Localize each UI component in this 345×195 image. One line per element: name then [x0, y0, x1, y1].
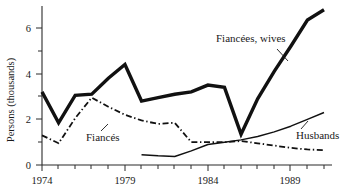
- y-tick-label-0: 0: [26, 160, 31, 171]
- x-tick-label-1979: 1979: [115, 175, 136, 186]
- series-line-fiances: [42, 98, 324, 151]
- y-axis-tick-labels: 0 2 4 6: [26, 23, 32, 171]
- x-axis-tick-labels: 1974 1979 1984 1989: [32, 175, 301, 186]
- y-tick-label-4: 4: [26, 69, 32, 80]
- annotation-label-fiances: Fiancés: [86, 131, 120, 143]
- annotation-fiancees-wives: Fiancées, wives: [216, 32, 288, 61]
- annotation-label-husbands: Husbands: [296, 129, 339, 141]
- y-tick-label-6: 6: [26, 23, 31, 34]
- y-axis-ticks: [36, 28, 42, 165]
- x-tick-label-1989: 1989: [280, 175, 301, 186]
- x-tick-label-1974: 1974: [32, 175, 54, 186]
- chart-container: 0 2 4 6 Persons (thousands): [0, 0, 345, 195]
- y-axis-title: Persons (thousands): [5, 57, 17, 142]
- series-line-fiancees-wives: [42, 10, 324, 134]
- y-tick-label-2: 2: [26, 114, 31, 125]
- annotation-fiances: Fiancés: [86, 124, 120, 143]
- annotation-leader-fiances: [101, 124, 108, 131]
- x-axis-ticks: [42, 165, 324, 171]
- annotation-husbands: Husbands: [296, 121, 339, 141]
- annotation-label-fiancees-wives: Fiancées, wives: [216, 32, 286, 44]
- x-tick-label-1984: 1984: [198, 175, 220, 186]
- line-chart: 0 2 4 6 Persons (thousands): [0, 0, 345, 195]
